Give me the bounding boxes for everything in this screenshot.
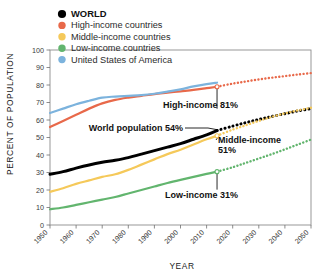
annotation-label: 51%	[218, 145, 236, 155]
legend-label: WORLD	[71, 8, 107, 19]
legend-swatch-icon	[58, 22, 65, 29]
annotation-middle-income: Middle-income	[215, 134, 281, 145]
annotation-label: Middle-income	[218, 135, 281, 145]
y-tick-label: 40	[36, 151, 44, 160]
population-urbanization-line-chart: 1009080706050403020100 19501960197019801…	[0, 0, 329, 275]
legend-label: High-income countries	[71, 20, 163, 30]
annotation-endpoint-marker	[215, 170, 219, 174]
legend-swatch-icon	[58, 33, 65, 40]
legend-label: Middle-income countries	[71, 32, 171, 42]
y-tick-label: 20	[36, 186, 44, 195]
y-axis-title: PERCENT OF POPULATION	[5, 53, 15, 175]
annotation-label: Low-income 31%	[165, 190, 238, 200]
y-tick-label: 60	[36, 116, 44, 125]
y-tick-label: 30	[36, 168, 44, 177]
legend-label: Low-income countries	[71, 43, 161, 53]
x-axis-title: YEAR	[169, 261, 194, 271]
y-tick-label: 50	[36, 133, 44, 142]
chart-container: 1009080706050403020100 19501960197019801…	[0, 0, 329, 275]
legend-swatch-icon	[58, 56, 65, 63]
legend-swatch-icon	[58, 10, 66, 18]
legend-item-united-states-of-america[interactable]: United States of America	[58, 55, 173, 65]
y-tick-label: 90	[36, 63, 44, 72]
annotation-label: High-income 81%	[163, 100, 238, 110]
y-tick-label: 80	[36, 81, 44, 90]
annotation-endpoint-marker	[215, 85, 219, 89]
legend-swatch-icon	[58, 45, 65, 52]
y-tick-label: 10	[36, 203, 44, 212]
legend-item-middle-income-countries[interactable]: Middle-income countries	[58, 32, 171, 42]
annotation-label: World population 54%	[89, 123, 183, 133]
legend-item-high-income-countries[interactable]: High-income countries	[58, 20, 163, 30]
annotation-middle-income-value: 51%	[218, 145, 236, 155]
legend-item-low-income-countries[interactable]: Low-income countries	[58, 43, 160, 53]
y-tick-label: 70	[36, 98, 44, 107]
y-tick-label: 100	[32, 46, 44, 55]
legend-label: United States of America	[71, 55, 173, 65]
